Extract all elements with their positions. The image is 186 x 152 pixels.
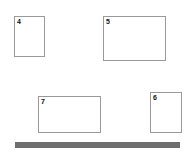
box-5-label: 5: [106, 18, 110, 26]
box-6-label: 6: [153, 94, 157, 102]
box-4[interactable]: 4: [14, 16, 45, 57]
bottom-bar: [15, 142, 180, 148]
box-5[interactable]: 5: [103, 16, 166, 61]
box-6[interactable]: 6: [150, 92, 182, 133]
layout-canvas: 4 5 7 6: [0, 0, 186, 152]
box-7-label: 7: [41, 98, 45, 106]
box-7[interactable]: 7: [38, 96, 101, 133]
box-4-label: 4: [17, 18, 21, 26]
